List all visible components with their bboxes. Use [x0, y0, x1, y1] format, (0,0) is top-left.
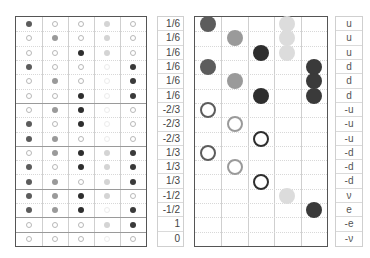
grid-cell: [68, 146, 94, 160]
filled-dot-icon: [104, 150, 110, 156]
grid-row: [16, 74, 146, 88]
hollow-dot-icon: [52, 21, 58, 27]
grid-cell: [42, 103, 68, 117]
grid-cell: [68, 17, 94, 31]
charge-label: 1: [158, 217, 183, 231]
grid-cell: [42, 232, 68, 246]
grid-row-divider: [195, 232, 327, 233]
filled-dot-icon: [78, 50, 84, 56]
antiparticle-ring-icon: [253, 131, 269, 147]
grid-cell: [16, 46, 42, 60]
hollow-dot-icon: [130, 193, 136, 199]
grid-cell: [42, 89, 68, 103]
grid-cell: [16, 117, 42, 131]
grid-cell: [16, 189, 42, 203]
antiparticle-ring-icon: [227, 159, 243, 175]
particle-label: -d: [336, 174, 362, 188]
filled-dot-icon: [52, 78, 58, 84]
hollow-dot-icon: [78, 222, 84, 228]
grid-cell: [120, 174, 146, 188]
grid-cell: [120, 132, 146, 146]
particle-label-column: uuuddd-u-u-u-d-d-dνe-e-ν: [335, 16, 363, 247]
grid-row: [16, 17, 146, 31]
grid-cell: [16, 132, 42, 146]
charge-label: -2/3: [158, 132, 183, 146]
antiparticle-ring-icon: [200, 145, 216, 161]
hollow-dot-icon: [26, 35, 32, 41]
particle-label: -d: [336, 160, 362, 174]
particle-label: d: [336, 89, 362, 103]
charge-label: -2/3: [158, 117, 183, 131]
grid-cell: [68, 160, 94, 174]
hollow-dot-icon: [130, 35, 136, 41]
filled-dot-icon: [130, 64, 136, 70]
grid-row: [16, 89, 146, 103]
filled-dot-icon: [104, 35, 110, 41]
particle-dot-icon: [200, 16, 216, 32]
filled-dot-icon: [78, 121, 84, 127]
grid-cell: [120, 17, 146, 31]
filled-dot-icon: [130, 222, 136, 228]
filled-dot-icon: [130, 93, 136, 99]
grid-cell: [42, 217, 68, 231]
particle-label: ν: [336, 189, 362, 203]
grid-row: [16, 60, 146, 74]
filled-dot-icon: [104, 222, 110, 228]
particle-dot-icon: [253, 45, 269, 61]
grid-cell: [68, 31, 94, 45]
particle-label: -d: [336, 146, 362, 160]
grid-cell: [120, 31, 146, 45]
grid-cell: [120, 189, 146, 203]
particle-label: u: [336, 17, 362, 31]
hollow-dot-icon: [78, 78, 84, 84]
hollow-dot-icon: [26, 236, 32, 242]
filled-dot-icon: [52, 207, 58, 213]
charge-label: 1/6: [158, 46, 183, 60]
grid-cell: [42, 46, 68, 60]
particle-label: -u: [336, 117, 362, 131]
grid-cell: [94, 160, 120, 174]
grid-row: [16, 46, 146, 60]
charge-label: -1/2: [158, 203, 183, 217]
filled-dot-icon: [78, 164, 84, 170]
charge-label: -2/3: [158, 103, 183, 117]
grid-cell: [16, 60, 42, 74]
particle-label: -ν: [336, 232, 362, 246]
particle-dot-icon: [253, 88, 269, 104]
filled-dot-icon: [130, 207, 136, 213]
charge-label: -1/2: [158, 189, 183, 203]
grid-cell: [120, 60, 146, 74]
grid-cell: [120, 217, 146, 231]
hollow-dot-icon: [130, 107, 136, 113]
grid-cell: [42, 189, 68, 203]
hypercharge-dot-grid: [15, 16, 147, 247]
grid-cell: [42, 160, 68, 174]
antiparticle-ring-icon: [200, 102, 216, 118]
grid-cell: [16, 31, 42, 45]
hollow-dot-icon: [130, 50, 136, 56]
grid-cell: [16, 146, 42, 160]
grid-cell: [94, 232, 120, 246]
particle-label: e: [336, 203, 362, 217]
grid-row-divider: [195, 31, 327, 32]
hollow-dot-icon: [104, 236, 110, 242]
grid-row: [16, 174, 146, 188]
hollow-dot-icon: [26, 107, 32, 113]
grid-cell: [16, 74, 42, 88]
filled-dot-icon: [104, 164, 110, 170]
grid-cell: [94, 103, 120, 117]
grid-cell: [16, 217, 42, 231]
hollow-dot-icon: [52, 50, 58, 56]
grid-cell: [16, 160, 42, 174]
grid-cell: [68, 132, 94, 146]
grid-row: [16, 146, 146, 160]
grid-cell: [120, 232, 146, 246]
filled-dot-icon: [130, 179, 136, 185]
grid-row-divider: [195, 160, 327, 161]
particle-label: u: [336, 46, 362, 60]
charge-label-column: 1/61/61/61/61/61/6-2/3-2/3-2/31/31/31/3-…: [157, 16, 184, 247]
particle-label: d: [336, 74, 362, 88]
grid-cell: [42, 174, 68, 188]
grid-cell: [94, 31, 120, 45]
grid-cell: [42, 132, 68, 146]
